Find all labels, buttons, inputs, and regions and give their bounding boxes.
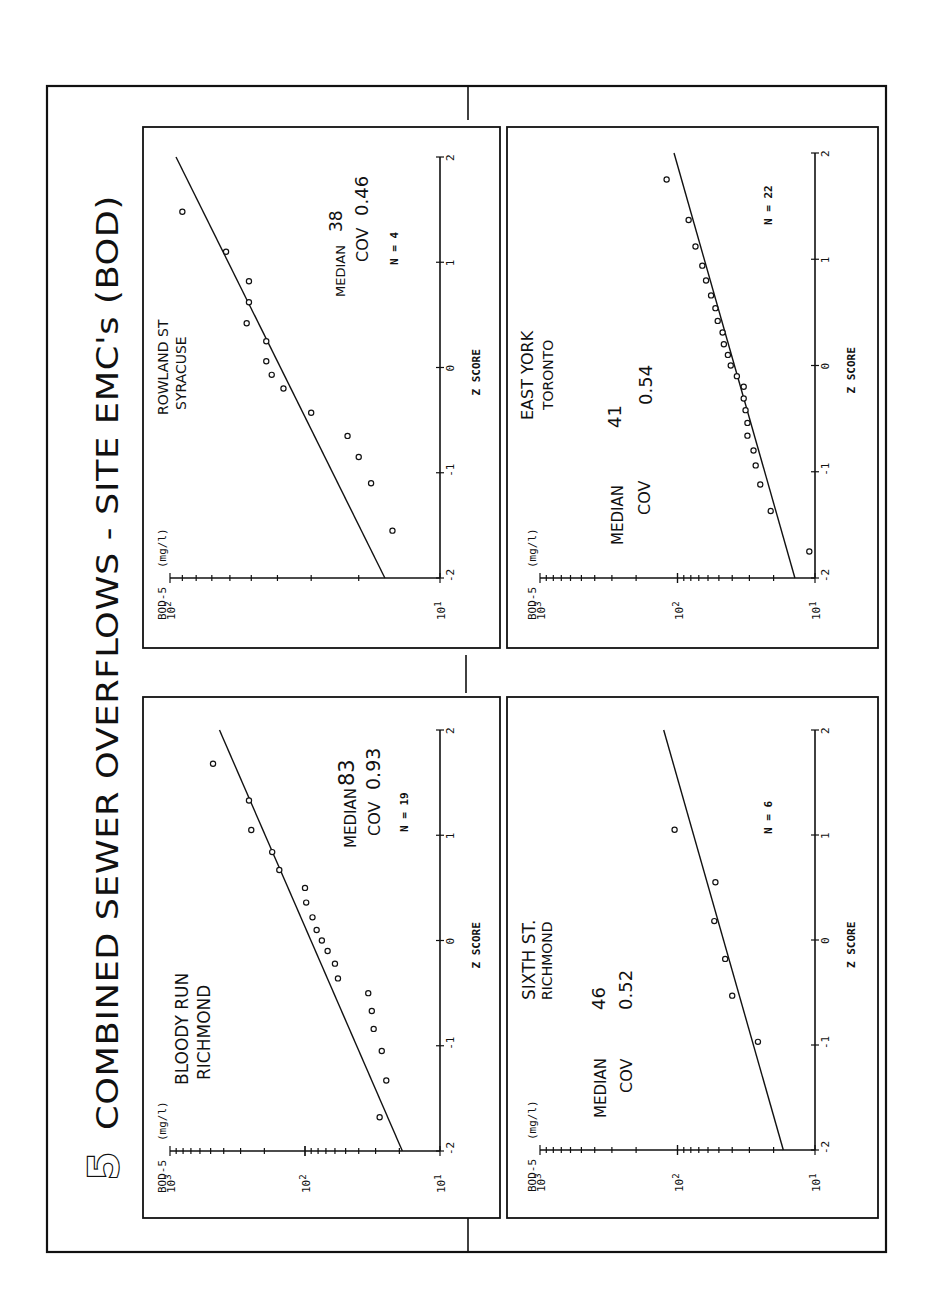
data-point xyxy=(743,408,748,413)
y-axis-units: (mg/l) xyxy=(156,528,169,568)
y-axis-units: (mg/l) xyxy=(526,528,539,568)
data-point xyxy=(807,549,812,554)
fit-line xyxy=(176,157,385,578)
chart-panels: -2-1012101102103BOD-5(mg/l)Z SCOREBLOODY… xyxy=(143,127,878,1218)
data-point xyxy=(264,359,269,364)
data-point xyxy=(244,321,249,326)
data-point xyxy=(368,481,373,486)
site-name-line1: BLOODY RUN xyxy=(172,973,192,1085)
bod-axis xyxy=(170,573,440,583)
data-point xyxy=(664,177,669,182)
data-point xyxy=(366,991,371,996)
bod-tick-label: 102 xyxy=(671,1173,686,1192)
data-point xyxy=(713,306,718,311)
chart-panel-east-york: -2-1012101102103BOD-5(mg/l)Z SCOREEAST Y… xyxy=(507,127,878,648)
data-point xyxy=(180,209,185,214)
z-tick-label: -2 xyxy=(444,1142,457,1155)
z-tick-label: -2 xyxy=(819,1141,832,1154)
fit-line xyxy=(219,730,402,1151)
data-point xyxy=(332,961,337,966)
chart-panel-sixth-st: -2-1012101102103BOD-5(mg/l)Z SCORESIXTH … xyxy=(507,697,878,1218)
median-value: 83 xyxy=(335,759,359,786)
data-point xyxy=(741,396,746,401)
data-point xyxy=(281,386,286,391)
z-tick-label: -1 xyxy=(444,1037,457,1050)
data-point xyxy=(686,217,691,222)
y-axis-label: BOD-5 xyxy=(526,1159,539,1192)
z-tick-label: -2 xyxy=(819,569,832,582)
z-tick-label: -1 xyxy=(819,463,832,476)
z-tick-label: 1 xyxy=(444,833,457,840)
data-point xyxy=(730,993,735,998)
cov-label: COV xyxy=(353,228,372,262)
cov-label: COV xyxy=(635,481,654,515)
data-point xyxy=(277,867,282,872)
z-tick-label: 0 xyxy=(819,937,832,944)
bod-tick-label: 101 xyxy=(433,1174,448,1193)
figure-title: COMBINED SEWER OVERFLOWS - SITE EMC's (B… xyxy=(90,195,125,1130)
data-point xyxy=(269,372,274,377)
chart-panel-bloody-run: -2-1012101102103BOD-5(mg/l)Z SCOREBLOODY… xyxy=(143,697,500,1218)
panel-border xyxy=(143,697,500,1218)
y-axis-label: BOD-5 xyxy=(156,587,169,620)
z-tick-label: -1 xyxy=(444,464,457,477)
n-count: N = 6 xyxy=(762,801,775,834)
data-point xyxy=(369,1008,374,1013)
z-tick-label: 0 xyxy=(444,938,457,945)
data-point xyxy=(223,249,228,254)
figure-canvas: 5 COMBINED SEWER OVERFLOWS - SITE EMC's … xyxy=(0,0,931,1312)
data-point xyxy=(246,300,251,305)
z-tick-label: 0 xyxy=(819,363,832,370)
y-axis-label: BOD-5 xyxy=(526,587,539,620)
site-name-line2: RICHMOND xyxy=(194,985,214,1080)
z-tick-label: 2 xyxy=(444,727,457,734)
site-name-line1: SIXTH ST. xyxy=(519,920,539,1000)
data-point xyxy=(725,352,730,357)
n-count: N = 22 xyxy=(762,185,775,225)
x-axis-label: Z SCORE xyxy=(845,922,858,968)
z-tick-label: 2 xyxy=(819,150,832,157)
median-value: 41 xyxy=(604,405,625,428)
data-point xyxy=(246,798,251,803)
data-point xyxy=(304,900,309,905)
bod-tick-label: 101 xyxy=(433,601,448,620)
x-axis-label: Z SCORE xyxy=(470,349,483,395)
data-point xyxy=(708,293,713,298)
data-points xyxy=(210,761,388,1120)
z-tick-label: 1 xyxy=(819,832,832,839)
data-point xyxy=(723,956,728,961)
median-label: MEDIAN xyxy=(609,485,627,545)
data-point xyxy=(753,463,758,468)
median-value: 46 xyxy=(588,987,609,1010)
site-name-line1: ROWLAND ST xyxy=(155,319,171,415)
z-tick-label: 1 xyxy=(444,260,457,267)
z-tick-label: 2 xyxy=(819,727,832,734)
data-point xyxy=(672,827,677,832)
data-point xyxy=(319,938,324,943)
cov-label: COV xyxy=(365,802,384,836)
chart-panel-rowland-st: -2-1012101102BOD-5(mg/l)Z SCOREROWLAND S… xyxy=(143,127,500,648)
data-point xyxy=(310,915,315,920)
median-value: 38 xyxy=(326,210,346,232)
site-name-line2: SYRACUSE xyxy=(173,336,189,410)
data-point xyxy=(379,1048,384,1053)
data-point xyxy=(264,339,269,344)
data-point xyxy=(314,927,319,932)
bod-axis xyxy=(170,1146,440,1156)
bod-axis xyxy=(540,573,815,583)
data-point xyxy=(210,761,215,766)
data-points xyxy=(664,177,812,554)
median-label: MEDIAN xyxy=(333,245,348,297)
z-score-axis xyxy=(436,730,444,1151)
fit-line xyxy=(664,730,784,1150)
bod-axis xyxy=(540,1145,815,1155)
n-count: N = 4 xyxy=(388,232,401,265)
x-axis-label: Z SCORE xyxy=(845,347,858,393)
median-label: MEDIAN xyxy=(592,1058,610,1118)
z-tick-label: 0 xyxy=(444,365,457,372)
n-count: N = 19 xyxy=(398,792,411,832)
cov-value: 0.93 xyxy=(362,748,384,790)
data-point xyxy=(246,279,251,284)
z-score-axis xyxy=(811,730,819,1150)
x-axis-label: Z SCORE xyxy=(470,922,483,968)
